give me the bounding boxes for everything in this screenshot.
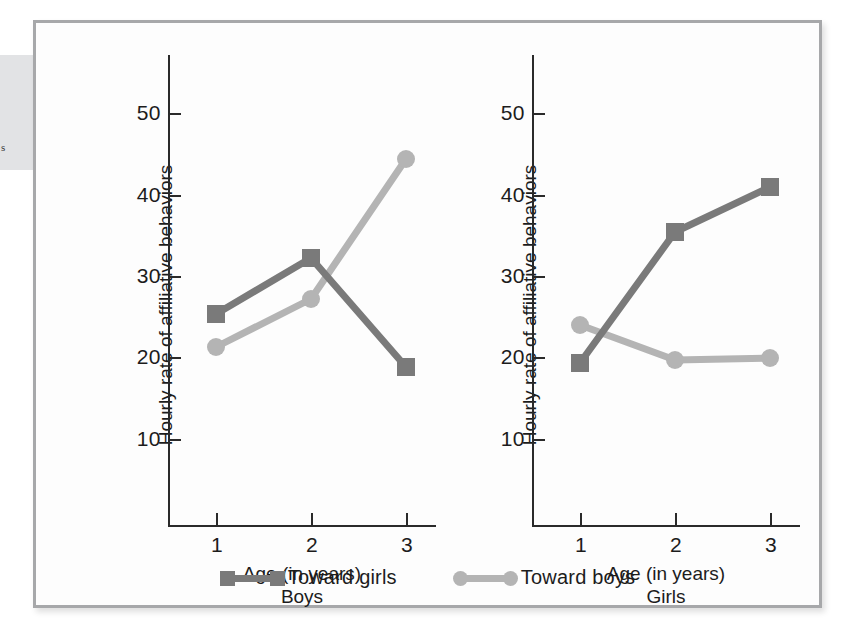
series-plot-girls	[532, 55, 800, 527]
x-tick-label-2: 2	[306, 533, 318, 557]
data-point-toward-girls-age3	[397, 358, 415, 376]
legend-label-toward-boys: Toward boys	[521, 566, 635, 589]
figure-frame: Hourly rate of affiliative behaviors 50 …	[33, 20, 822, 608]
plot-area-girls: Hourly rate of affiliative behaviors 50 …	[532, 55, 800, 527]
legend-entry-toward-girls: Toward girls	[220, 566, 397, 589]
data-point-toward-girls-age2	[666, 223, 684, 241]
data-point-toward-girls-age2	[302, 249, 320, 267]
x-tick-label-1: 1	[575, 533, 587, 557]
series-plot-boys	[168, 55, 436, 527]
data-point-toward-girls-age3	[761, 178, 779, 196]
chart-panel-girls: Hourly rate of affiliative behaviors 50 …	[436, 49, 816, 609]
panel-caption-boys: Boys	[168, 586, 436, 608]
chart-legend: Toward girls Toward boys	[33, 566, 822, 589]
x-tick-label-1: 1	[211, 533, 223, 557]
data-point-toward-girls-age1	[571, 354, 589, 372]
data-point-toward-boys-age2	[302, 290, 320, 308]
data-point-toward-girls-age1	[207, 305, 225, 323]
x-tick-label-2: 2	[670, 533, 682, 557]
plot-area-boys: Hourly rate of affiliative behaviors 50 …	[168, 55, 436, 527]
x-tick-label-3: 3	[401, 533, 413, 557]
legend-label-toward-girls: Toward girls	[288, 566, 397, 589]
data-point-toward-boys-age1	[571, 316, 589, 334]
margin-text-fragment: s	[1, 141, 5, 153]
chart-panel-boys: Hourly rate of affiliative behaviors 50 …	[72, 49, 452, 609]
legend-square-marker	[220, 569, 286, 587]
x-tick-label-3: 3	[765, 533, 777, 557]
legend-circle-marker	[453, 569, 519, 587]
data-point-toward-boys-age3	[397, 150, 415, 168]
data-point-toward-boys-age3	[761, 349, 779, 367]
data-point-toward-boys-age1	[207, 338, 225, 356]
series-line-toward-girls	[216, 258, 406, 367]
panel-caption-girls: Girls	[532, 586, 800, 608]
legend-entry-toward-boys: Toward boys	[453, 566, 635, 589]
data-point-toward-boys-age2	[666, 351, 684, 369]
